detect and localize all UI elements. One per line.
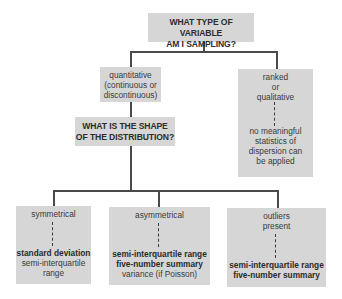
ranked-or: or: [238, 82, 313, 92]
ranked-label: ranked: [238, 72, 313, 82]
question-line-2: AM I SAMPLING?: [148, 39, 254, 50]
shape-question-line-1: WHAT IS THE SHAPE: [75, 121, 175, 132]
outliers-result-bold-2: five-number summary: [227, 270, 326, 280]
outliers-result-bold-1: semi-interquartile range: [227, 260, 326, 270]
connector-to-asymmetrical: [158, 190, 160, 207]
dashed-connector: [52, 222, 54, 246]
connector-top-horizontal: [130, 51, 278, 53]
connector-to-ranked: [276, 51, 278, 69]
symmetrical-result-2: semi-interquartile: [16, 258, 91, 268]
question-line-1: WHAT TYPE OF VARIABLE: [148, 17, 254, 39]
ranked-qualitative-box: ranked or qualitative no meaningful stat…: [238, 69, 313, 177]
connector-shape-vertical: [130, 146, 132, 192]
asymmetrical-box: asymmetrical semi-interquartile range fi…: [109, 207, 210, 285]
qualitative-label: qualitative: [238, 92, 313, 102]
shape-question-line-2: OF THE DISTRIBUTION?: [75, 132, 175, 143]
connector-to-symmetrical: [53, 190, 55, 206]
asymmetrical-label: asymmetrical: [109, 210, 210, 220]
outliers-label-1: outliers: [227, 211, 326, 221]
connector-to-quantitative: [130, 51, 132, 68]
ranked-result-3: dispersion can: [238, 146, 313, 156]
ranked-result-2: statistics of: [238, 136, 313, 146]
symmetrical-result-3: range: [16, 268, 91, 278]
distribution-shape-question-box: WHAT IS THE SHAPE OF THE DISTRIBUTION?: [75, 117, 175, 146]
symmetrical-box: symmetrical standard deviation semi-inte…: [16, 206, 91, 284]
dashed-connector: [158, 223, 160, 247]
variable-type-question-box: WHAT TYPE OF VARIABLE AM I SAMPLING?: [148, 13, 254, 42]
dashed-connector: [274, 102, 276, 126]
dashed-connector: [275, 234, 277, 258]
ranked-result-1: no meaningful: [238, 126, 313, 136]
symmetrical-label: symmetrical: [16, 209, 91, 219]
quantitative-box: quantitative (continuous or discontinuou…: [100, 67, 161, 102]
asymmetrical-result-3: variance (if Poisson): [109, 269, 210, 279]
connector-bottom-horizontal: [53, 190, 279, 192]
quantitative-label: quantitative: [100, 70, 161, 80]
outliers-label-2: present: [227, 221, 326, 231]
symmetrical-result-bold: standard deviation: [16, 248, 91, 258]
asymmetrical-result-bold-1: semi-interquartile range: [109, 249, 210, 259]
outliers-box: outliers present semi-interquartile rang…: [227, 208, 326, 287]
quantitative-sub-1: (continuous or: [100, 80, 161, 90]
connector-quantitative-to-shape: [130, 102, 132, 117]
quantitative-sub-2: discontinuous): [100, 90, 161, 100]
asymmetrical-result-bold-2: five-number summary: [109, 259, 210, 269]
ranked-result-4: be applied: [238, 156, 313, 166]
connector-to-outliers: [277, 190, 279, 208]
